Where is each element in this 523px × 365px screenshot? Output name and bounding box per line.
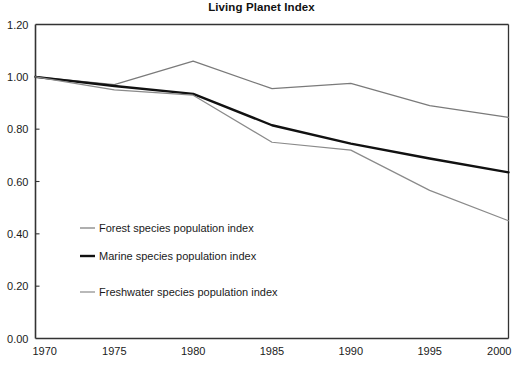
legend-label: Freshwater species population index xyxy=(99,286,278,298)
y-tick-label: 0.00 xyxy=(7,333,28,345)
y-tick-label: 1.20 xyxy=(7,19,28,31)
y-tick-label: 0.80 xyxy=(7,123,28,135)
y-tick-label: 0.20 xyxy=(7,280,28,292)
x-tick-label: 2000 xyxy=(487,345,511,357)
y-tick-label: 1.00 xyxy=(7,71,28,83)
x-tick-label: 1985 xyxy=(260,345,284,357)
legend-label: Forest species population index xyxy=(99,222,254,234)
series-line xyxy=(36,77,509,173)
y-axis-tick-labels: 0.000.200.400.600.801.001.20 xyxy=(7,19,28,345)
living-planet-index-chart: Living Planet Index 0.000.200.400.600.80… xyxy=(0,0,523,365)
x-tick-label: 1970 xyxy=(33,345,57,357)
y-tick-label: 0.40 xyxy=(7,228,28,240)
series-lines xyxy=(36,61,509,221)
chart-plot-area: 0.000.200.400.600.801.001.20 19701975198… xyxy=(0,0,523,365)
series-line xyxy=(36,61,509,117)
x-tick-label: 1995 xyxy=(417,345,441,357)
series-line xyxy=(36,77,509,221)
x-tick-label: 1975 xyxy=(102,345,126,357)
x-tick-label: 1980 xyxy=(181,345,205,357)
x-tick-label: 1990 xyxy=(339,345,363,357)
y-tick-label: 0.60 xyxy=(7,176,28,188)
x-axis-tick-labels: 1970197519801985199019952000 xyxy=(33,345,512,357)
legend-label: Marine species population index xyxy=(99,250,257,262)
chart-legend: Forest species population indexMarine sp… xyxy=(80,222,278,298)
